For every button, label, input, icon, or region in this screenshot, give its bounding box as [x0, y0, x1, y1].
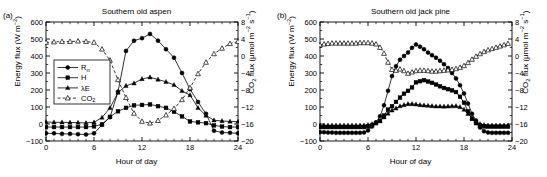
- svg-text:λE: λE: [81, 84, 90, 93]
- svg-text:−100: −100: [26, 137, 43, 146]
- svg-text:−8: −8: [241, 86, 250, 95]
- svg-text:−20: −20: [515, 137, 528, 146]
- svg-text:0: 0: [313, 120, 317, 129]
- svg-text:−16: −16: [241, 120, 254, 129]
- svg-text:8: 8: [241, 18, 245, 27]
- svg-text:400: 400: [30, 52, 43, 61]
- svg-text:200: 200: [304, 86, 317, 95]
- svg-text:−16: −16: [515, 120, 528, 129]
- svg-text:0: 0: [44, 143, 48, 152]
- svg-text:300: 300: [304, 69, 317, 78]
- svg-text:−4: −4: [241, 69, 250, 78]
- svg-text:500: 500: [30, 35, 43, 44]
- svg-text:400: 400: [304, 52, 317, 61]
- panel-a: (a) Southern old aspen Energy flux (W m−…: [0, 0, 273, 177]
- svg-text:6: 6: [366, 143, 370, 152]
- svg-text:100: 100: [30, 103, 43, 112]
- svg-text:4: 4: [241, 35, 245, 44]
- svg-text:H: H: [81, 73, 86, 82]
- figure-container: (a) Southern old aspen Energy flux (W m−…: [0, 0, 547, 177]
- svg-text:200: 200: [30, 86, 43, 95]
- panel-b: (b) Southern old jack pine Energy flux (…: [274, 0, 547, 177]
- svg-text:18: 18: [460, 143, 468, 152]
- svg-text:0: 0: [39, 120, 43, 129]
- svg-text:−12: −12: [241, 103, 254, 112]
- svg-text:100: 100: [304, 103, 317, 112]
- svg-text:500: 500: [304, 35, 317, 44]
- svg-text:−8: −8: [515, 86, 524, 95]
- svg-text:−4: −4: [515, 69, 524, 78]
- svg-text:−20: −20: [241, 137, 254, 146]
- svg-text:−100: −100: [300, 137, 317, 146]
- panel-a-plot: 06121824−1000100200300400500600−20−16−12…: [0, 0, 273, 177]
- svg-text:600: 600: [304, 18, 317, 27]
- svg-text:8: 8: [515, 18, 519, 27]
- svg-text:−12: −12: [515, 103, 528, 112]
- svg-text:0: 0: [515, 52, 519, 61]
- svg-text:18: 18: [186, 143, 194, 152]
- panel-b-plot: 06121824−1000100200300400500600−20−16−12…: [274, 0, 547, 177]
- svg-text:600: 600: [30, 18, 43, 27]
- svg-text:12: 12: [412, 143, 420, 152]
- svg-text:0: 0: [241, 52, 245, 61]
- svg-text:0: 0: [318, 143, 322, 152]
- svg-text:12: 12: [138, 143, 146, 152]
- svg-text:6: 6: [92, 143, 96, 152]
- svg-text:4: 4: [515, 35, 519, 44]
- svg-text:300: 300: [30, 69, 43, 78]
